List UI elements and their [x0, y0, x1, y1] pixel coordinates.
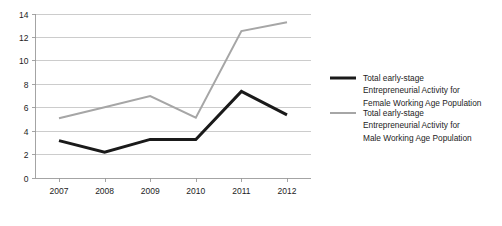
x-axis-tick-label: 2009 — [141, 186, 160, 196]
chart-canvas: 02468101214 200720082009201020112012 Tot… — [0, 0, 502, 226]
y-axis-tick-label: 2 — [24, 150, 29, 160]
legend-label: Entrepreneurial Activity for — [363, 85, 460, 95]
y-axis-tick-label: 0 — [24, 174, 29, 184]
series-line-male — [59, 22, 287, 118]
data-series — [59, 22, 287, 152]
x-axis-tick-label: 2007 — [50, 186, 69, 196]
x-axis-tick-label: 2010 — [186, 186, 205, 196]
legend-label: Female Working Age Population — [363, 98, 482, 108]
gridlines — [36, 15, 311, 155]
legend-label: Total early-stage — [363, 108, 424, 118]
x-axis-tick-labels: 200720082009201020112012 — [50, 186, 297, 196]
x-axis-tick-label: 2008 — [95, 186, 114, 196]
x-axis-tick-label: 2012 — [278, 186, 297, 196]
chart-legend: Total early-stageEntrepreneurial Activit… — [330, 73, 482, 142]
x-axis-tick-label: 2011 — [232, 186, 251, 196]
y-axis-tick-label: 6 — [24, 103, 29, 113]
series-line-female — [59, 91, 287, 152]
y-axis-tick-label: 10 — [19, 56, 29, 66]
line-chart: 02468101214 200720082009201020112012 Tot… — [0, 0, 502, 226]
axes — [36, 14, 311, 179]
legend-label: Male Working Age Population — [363, 133, 472, 143]
y-axis-tick-labels: 02468101214 — [19, 10, 29, 184]
y-axis-tick-label: 4 — [24, 127, 29, 137]
y-axis-tick-label: 14 — [19, 10, 29, 20]
y-axis-tick-label: 12 — [19, 33, 29, 43]
y-axis-tick-label: 8 — [24, 80, 29, 90]
legend-label: Total early-stage — [363, 73, 424, 83]
y-tick-marks — [32, 15, 36, 179]
legend-label: Entrepreneurial Activity for — [363, 120, 460, 130]
